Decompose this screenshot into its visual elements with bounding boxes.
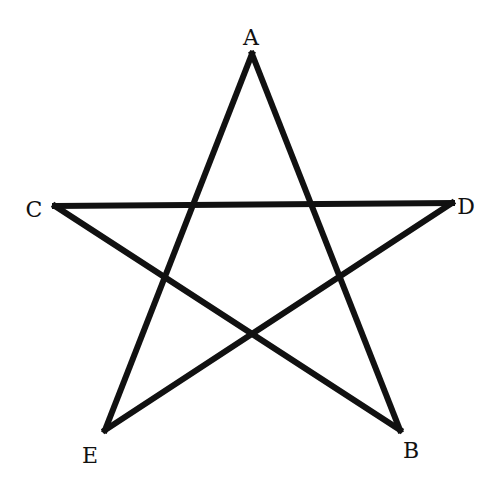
edge-ea bbox=[105, 54, 252, 430]
vertex-label-b: B bbox=[403, 440, 419, 462]
edge-ab bbox=[252, 54, 400, 430]
vertex-label-c: C bbox=[26, 199, 43, 221]
edge-de bbox=[105, 203, 452, 430]
pentagram-diagram bbox=[0, 0, 499, 489]
vertex-label-d: D bbox=[457, 196, 475, 218]
edge-bc bbox=[55, 206, 400, 430]
vertex-label-a: A bbox=[243, 27, 259, 49]
edge-cd bbox=[55, 203, 452, 206]
star-edges bbox=[55, 54, 452, 430]
vertex-label-e: E bbox=[82, 445, 98, 467]
